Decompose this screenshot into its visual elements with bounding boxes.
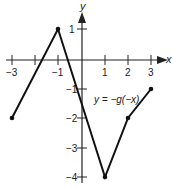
chart: −3 −1 1 2 3 1 −1 −2 −3 −4 x y y = −g(−x) xyxy=(0,0,173,189)
y-tick-label: −2 xyxy=(66,113,78,124)
point xyxy=(10,116,15,121)
point xyxy=(149,87,154,92)
x-tick-label: 1 xyxy=(102,67,108,78)
equation-label: y = −g(−x) xyxy=(93,94,139,105)
x-tick-label: 2 xyxy=(125,67,131,78)
y-axis-label: y xyxy=(79,0,87,12)
point xyxy=(126,116,131,121)
x-axis-label: x xyxy=(165,53,172,65)
y-tick-label: 1 xyxy=(69,24,75,35)
point xyxy=(103,175,108,180)
y-tick-label: −4 xyxy=(66,172,78,183)
y-axis-arrow-icon xyxy=(78,12,86,23)
x-tick-label: 3 xyxy=(148,67,154,78)
x-tick-label: −3 xyxy=(6,67,18,78)
point xyxy=(56,27,61,32)
y-tick-label: −3 xyxy=(66,143,78,154)
x-tick-label: −1 xyxy=(52,67,64,78)
